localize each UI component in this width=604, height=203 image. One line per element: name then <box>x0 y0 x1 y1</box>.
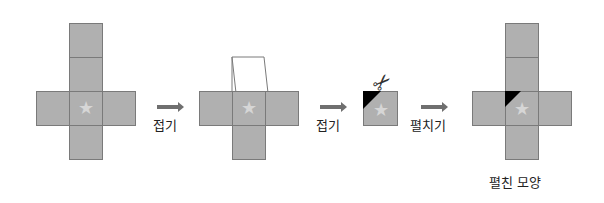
net-square <box>472 91 506 126</box>
net-square <box>69 23 103 58</box>
star-icon: ★ <box>76 99 96 117</box>
net-square <box>102 91 136 126</box>
star-icon: ★ <box>371 101 391 119</box>
step-label-fold1: 접기 <box>153 115 177 134</box>
arrow-right-icon <box>320 105 342 109</box>
step-label-fold2: 접기 <box>316 115 340 134</box>
net-square <box>69 125 103 160</box>
step-label-unfold: 펼치기 <box>410 115 446 134</box>
arrow-right-icon <box>157 105 179 109</box>
result-label: 펼친 모양 <box>489 172 541 191</box>
net-square <box>505 125 539 160</box>
net-square <box>232 125 266 160</box>
net-square <box>199 91 233 126</box>
net-square <box>505 57 539 92</box>
net-square <box>69 57 103 92</box>
folded-flap <box>228 55 270 95</box>
arrow-right-icon <box>421 105 443 109</box>
net-square <box>265 91 299 126</box>
star-icon: ★ <box>239 99 259 117</box>
net-square <box>538 91 572 126</box>
net-square <box>505 23 539 58</box>
star-icon: ★ <box>512 100 532 118</box>
net-square <box>36 91 70 126</box>
